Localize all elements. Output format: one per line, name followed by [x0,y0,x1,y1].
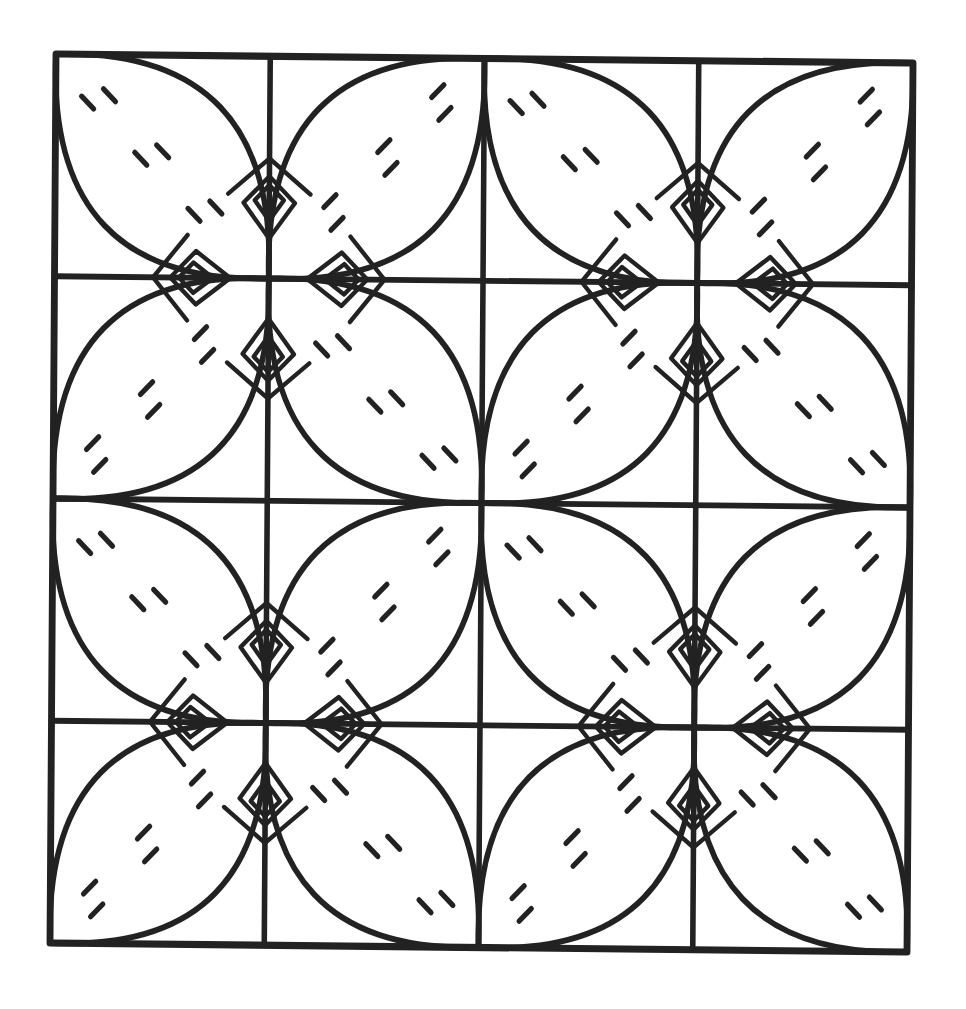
dash-mark [429,529,441,542]
petal [692,727,908,952]
dash-mark [797,404,809,417]
dash-mark [337,336,349,349]
dash-mark [569,386,581,399]
dash-mark [507,545,519,558]
petal [480,503,696,728]
dash-mark [857,534,869,547]
dash-mark [201,350,213,363]
dash-mark [103,89,115,102]
dash-mark [529,538,541,551]
petal [694,505,910,730]
dash-mark [137,826,149,839]
dash-mark [385,163,397,176]
dash-mark [366,844,378,857]
petal [478,725,694,950]
dash-mark [741,792,753,805]
dash-mark [94,460,106,473]
dash-mark [744,348,756,361]
dash-mark [191,771,203,784]
dash-mark [100,533,112,546]
dash-mark [510,101,522,114]
dash-mark [132,597,144,610]
dash-mark [867,112,879,125]
dash-mark [378,140,390,153]
dash-mark [576,409,588,422]
dash-mark [566,831,578,844]
dash-mark [207,646,219,659]
dash-mark [522,464,534,477]
dash-mark [749,644,761,657]
dash-mark [188,208,200,221]
petal [50,720,266,945]
dash-mark [850,460,862,473]
petal [264,723,480,948]
dash-mark [210,201,222,214]
dash-mark [519,909,531,922]
dash-mark [321,639,333,652]
dash-mark [444,448,456,461]
dash-mark [573,854,585,867]
dash-mark [154,590,166,603]
petal [54,54,270,279]
dash-mark [515,441,527,454]
dash-mark [140,382,152,395]
dash-mark [816,841,828,854]
dash-mark [560,601,572,614]
dash-mark [83,881,95,894]
dash-mark [638,206,650,219]
petal [53,276,269,501]
dash-mark [86,437,98,450]
dash-mark [819,396,831,409]
dash-mark [391,392,403,405]
dash-mark [613,657,625,670]
dash-mark [135,152,147,165]
quilt-pattern-drawing [0,0,966,1009]
petal [51,498,267,723]
dash-mark [512,886,524,899]
dash-mark [813,167,825,180]
dash-mark [869,897,881,910]
dash-mark [441,893,453,906]
petal [268,56,484,281]
petal [265,500,481,725]
dash-mark [331,218,343,231]
dash-mark [422,455,434,468]
dash-mark [759,222,771,235]
dash-mark [334,780,346,793]
dash-mark [194,327,206,340]
dash-mark [532,93,544,106]
dash-mark [864,557,876,570]
petal [697,60,913,285]
dash-mark [635,650,647,663]
dash-mark [563,157,575,170]
dash-mark [872,453,884,466]
dash-mark [436,552,448,565]
dash-mark [157,145,169,158]
dash-mark [324,195,336,208]
dash-mark [860,89,872,102]
dash-mark [810,612,822,625]
dash-mark [382,607,394,620]
petal [483,58,699,283]
dash-mark [185,653,197,666]
dash-mark [316,343,328,356]
dash-mark [623,331,635,344]
dash-mark [630,354,642,367]
dash-mark [627,799,639,812]
dash-mark [369,399,381,412]
dash-mark [794,848,806,861]
dash-mark [82,96,94,109]
dash-mark [763,785,775,798]
dash-mark [145,849,157,862]
dash-mark [806,144,818,157]
dash-mark [620,776,632,789]
dash-mark [803,589,815,602]
dash-mark [432,85,444,98]
dash-mark [847,904,859,917]
dash-mark [79,541,91,554]
dash-mark [313,788,325,801]
dash-mark [752,199,764,212]
petal [481,280,697,505]
dash-mark [91,904,103,917]
dash-mark [585,150,597,163]
